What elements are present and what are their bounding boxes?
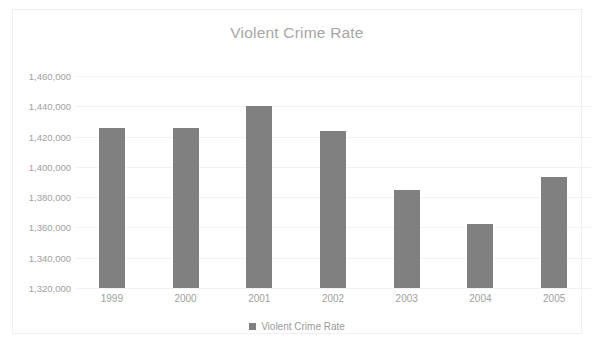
y-axis-tick-label: 1,400,000 [15,161,71,172]
x-axis-tick-label: 2000 [156,293,216,304]
bar[interactable] [394,190,420,288]
x-axis-tick-labels: 1999200020012002200320042005 [75,293,591,309]
chart-frame: Violent Crime Rate 1,460,0001,440,0001,4… [12,9,582,334]
bar[interactable] [246,106,272,288]
y-axis-tick-label: 1,460,000 [15,71,71,82]
gridline [75,76,591,77]
chart-title: Violent Crime Rate [13,24,581,42]
y-axis-tick-label: 1,340,000 [15,252,71,263]
y-axis-tick-label: 1,440,000 [15,101,71,112]
bar[interactable] [99,128,125,289]
x-axis-tick-label: 1999 [82,293,142,304]
x-axis-tick-label: 2003 [377,293,437,304]
legend-label: Violent Crime Rate [261,321,345,332]
bar[interactable] [467,224,493,288]
gridline [75,288,591,289]
chart-legend: Violent Crime Rate [13,321,581,332]
y-axis-tick-labels: 1,460,0001,440,0001,420,0001,400,0001,38… [13,76,71,288]
bar[interactable] [173,128,199,289]
x-axis-tick-label: 2004 [450,293,510,304]
y-axis-tick-label: 1,380,000 [15,192,71,203]
bar[interactable] [320,131,346,288]
bar[interactable] [541,177,567,288]
gridline [75,106,591,107]
legend-swatch-icon [249,323,256,330]
y-axis-tick-label: 1,320,000 [15,283,71,294]
x-axis-tick-label: 2001 [229,293,289,304]
plot-area [75,76,591,288]
y-axis-tick-label: 1,420,000 [15,131,71,142]
y-axis-tick-label: 1,360,000 [15,222,71,233]
x-axis-tick-label: 2002 [303,293,363,304]
x-axis-tick-label: 2005 [524,293,584,304]
